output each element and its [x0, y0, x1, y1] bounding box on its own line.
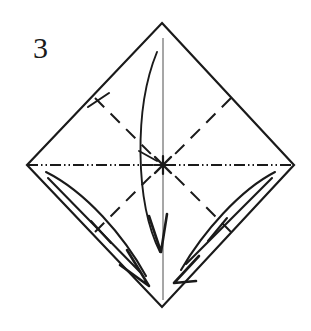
origami-diagram-canvas: 3 — [0, 0, 311, 331]
center-x-mark — [154, 156, 172, 174]
origami-step-figure: 3 — [0, 0, 311, 331]
step-number-label: 3 — [33, 31, 48, 64]
